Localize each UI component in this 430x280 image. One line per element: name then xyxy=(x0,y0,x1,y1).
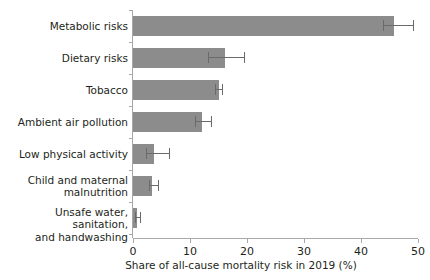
y-label-line: Ambient air pollution xyxy=(9,116,128,129)
y-axis-label: Child and maternalmalnutrition xyxy=(9,174,133,199)
y-axis-label: Metabolic risks xyxy=(9,20,133,33)
x-tick-label: 30 xyxy=(297,245,311,258)
y-axis-label: Low physical activity xyxy=(9,148,133,161)
y-tick-mark xyxy=(129,74,133,75)
y-axis-label: Unsafe water, sanitation,and handwashing xyxy=(9,206,133,244)
error-bar-cap-low xyxy=(383,20,384,31)
y-label-line: Tobacco xyxy=(9,84,128,97)
y-axis-label: Dietary risks xyxy=(9,52,133,65)
error-bar-line xyxy=(383,25,413,26)
y-tick-mark xyxy=(129,202,133,203)
x-tick-mark xyxy=(133,239,134,243)
y-tick-mark xyxy=(129,10,133,11)
error-bar-line xyxy=(195,121,210,122)
y-tick-mark xyxy=(129,170,133,171)
bar xyxy=(133,16,394,36)
error-bar-cap-high xyxy=(413,20,414,31)
bar xyxy=(133,144,154,164)
bar xyxy=(133,112,202,132)
x-tick-mark xyxy=(190,239,191,243)
error-bar-cap-high xyxy=(244,52,245,63)
y-label-line: and handwashing xyxy=(9,231,128,244)
y-tick-mark xyxy=(129,138,133,139)
x-tick-label: 0 xyxy=(130,245,137,258)
x-tick-label: 50 xyxy=(411,245,425,258)
y-label-line: Unsafe water, sanitation, xyxy=(9,206,128,231)
error-bar-line xyxy=(208,57,244,58)
y-label-line: malnutrition xyxy=(9,186,128,199)
y-label-line: Child and maternal xyxy=(9,174,128,187)
bar-row xyxy=(133,170,418,202)
y-tick-mark xyxy=(129,106,133,107)
bar-row xyxy=(133,106,418,138)
error-bar-cap-high xyxy=(140,212,141,223)
bar-row xyxy=(133,138,418,170)
plot-area xyxy=(133,10,418,238)
error-bar-line xyxy=(149,185,158,186)
bar-row xyxy=(133,74,418,106)
error-bar-line xyxy=(146,153,169,154)
x-tick-label: 40 xyxy=(354,245,368,258)
x-tick-mark xyxy=(247,239,248,243)
error-bar-line xyxy=(215,89,223,90)
error-bar-cap-low xyxy=(135,212,136,223)
y-axis-label: Tobacco xyxy=(9,84,133,97)
error-bar-cap-low xyxy=(149,180,150,191)
bar-row xyxy=(133,42,418,74)
y-label-line: Dietary risks xyxy=(9,52,128,65)
error-bar-cap-low xyxy=(215,84,216,95)
error-bar-cap-high xyxy=(222,84,223,95)
error-bar-cap-low xyxy=(146,148,147,159)
x-axis-title: Share of all-cause mortality risk in 201… xyxy=(0,259,430,271)
error-bar-cap-high xyxy=(169,148,170,159)
error-bar-cap-low xyxy=(208,52,209,63)
y-label-line: Metabolic risks xyxy=(9,20,128,33)
y-tick-mark xyxy=(129,234,133,235)
error-bar-cap-high xyxy=(211,116,212,127)
error-bar-cap-low xyxy=(195,116,196,127)
y-axis-label: Ambient air pollution xyxy=(9,116,133,129)
bar xyxy=(133,48,225,68)
x-tick-mark xyxy=(304,239,305,243)
bar-row xyxy=(133,202,418,234)
bar xyxy=(133,80,219,100)
y-axis-category-labels: Metabolic risksDietary risksTobaccoAmbie… xyxy=(0,10,133,238)
y-tick-mark xyxy=(129,42,133,43)
y-label-line: Low physical activity xyxy=(9,148,128,161)
x-tick-mark xyxy=(361,239,362,243)
bar-row xyxy=(133,10,418,42)
x-tick-label: 10 xyxy=(183,245,197,258)
bar-chart: Metabolic risksDietary risksTobaccoAmbie… xyxy=(0,0,430,280)
error-bar-cap-high xyxy=(158,180,159,191)
x-tick-label: 20 xyxy=(240,245,254,258)
x-tick-mark xyxy=(418,239,419,243)
